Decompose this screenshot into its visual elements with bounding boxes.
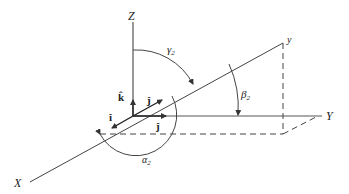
j-hat-on-vector-label: ĵ <box>146 94 151 106</box>
alpha-arc <box>100 96 177 156</box>
i-hat-vector <box>112 116 133 128</box>
alpha-label: α2 <box>142 154 151 167</box>
gamma-arc <box>133 50 193 84</box>
vector-y-label: y <box>286 34 292 45</box>
z-axis-label: Z <box>128 9 135 23</box>
j-hat-on-axis-label: ĵ <box>155 120 160 132</box>
i-hat-label: î <box>108 111 113 123</box>
diagram-canvas: Z Y X y k̂ î ĵ ĵ γ2 β2 α2 <box>0 0 349 194</box>
vector-line <box>30 43 283 182</box>
k-hat-label: k̂ <box>118 91 125 103</box>
beta-label: β2 <box>240 88 250 102</box>
x-axis-label: X <box>13 176 22 190</box>
y-axis-label: Y <box>326 109 334 123</box>
gamma-label: γ2 <box>167 43 175 57</box>
projection-diagonal-dashed <box>283 116 318 134</box>
